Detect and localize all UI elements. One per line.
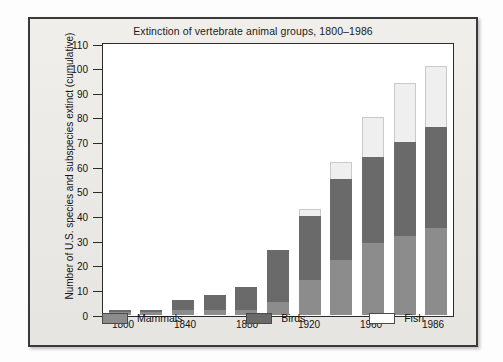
legend-item-birds: Birds bbox=[246, 312, 305, 324]
bar-segment-fish bbox=[362, 117, 384, 156]
legend-swatch-icon-mammals bbox=[102, 313, 128, 324]
bar-segment-fish bbox=[299, 209, 321, 216]
bar-segment-birds bbox=[425, 127, 447, 228]
bar-column bbox=[172, 46, 194, 315]
y-axis-tick bbox=[93, 69, 102, 70]
legend-label-mammals: Mammals bbox=[137, 312, 183, 324]
y-axis-tick-label: 50 bbox=[62, 187, 88, 198]
bar-segment-birds bbox=[267, 250, 289, 302]
y-axis-tick bbox=[93, 143, 102, 144]
y-axis-tick bbox=[93, 168, 102, 169]
chart-figure: Extinction of vertebrate animal groups, … bbox=[0, 0, 503, 362]
plot-wrapper: 0102030405060708090100110 bbox=[102, 43, 454, 317]
bar-column bbox=[204, 46, 226, 315]
y-axis-tick-label: 80 bbox=[62, 113, 88, 124]
bar-column bbox=[140, 46, 162, 315]
plot-area bbox=[102, 43, 454, 317]
legend-label-fish: Fish bbox=[404, 312, 424, 324]
bar-group bbox=[105, 46, 452, 315]
y-axis-tick-label: 90 bbox=[62, 88, 88, 99]
bar-segment-birds bbox=[330, 179, 352, 260]
bar-column bbox=[267, 46, 289, 315]
bar-segment-birds bbox=[299, 216, 321, 280]
bar-segment-mammals bbox=[394, 236, 416, 315]
y-axis-tick bbox=[93, 45, 102, 46]
legend-label-birds: Birds bbox=[281, 312, 305, 324]
y-axis-tick bbox=[93, 192, 102, 193]
chart-frame: Extinction of vertebrate animal groups, … bbox=[28, 17, 478, 347]
y-axis-tick bbox=[93, 118, 102, 119]
chart-legend: Mammals Birds Fish bbox=[70, 307, 456, 329]
y-axis-tick bbox=[93, 217, 102, 218]
bar-segment-fish bbox=[394, 83, 416, 142]
chart-title: Extinction of vertebrate animal groups, … bbox=[30, 25, 476, 37]
legend-item-fish: Fish bbox=[369, 312, 424, 324]
bar-segment-fish bbox=[425, 66, 447, 128]
bar-column bbox=[425, 46, 447, 315]
bar-segment-birds bbox=[362, 157, 384, 243]
y-axis-tick-label: 20 bbox=[62, 261, 88, 272]
bar-segment-mammals bbox=[362, 243, 384, 314]
bar-column bbox=[330, 46, 352, 315]
y-axis-tick-label: 110 bbox=[62, 39, 88, 50]
bar-column bbox=[109, 46, 131, 315]
y-axis-tick-label: 30 bbox=[62, 236, 88, 247]
bar-segment-fish bbox=[330, 162, 352, 179]
y-axis-tick bbox=[93, 94, 102, 95]
y-axis-tick bbox=[93, 291, 102, 292]
y-axis-tick-label: 40 bbox=[62, 211, 88, 222]
y-axis-tick bbox=[93, 266, 102, 267]
y-axis-tick-label: 60 bbox=[62, 162, 88, 173]
y-axis-tick bbox=[93, 242, 102, 243]
bar-column bbox=[235, 46, 257, 315]
bar-column bbox=[394, 46, 416, 315]
legend-item-mammals: Mammals bbox=[102, 312, 183, 324]
y-axis-tick-label: 100 bbox=[62, 64, 88, 75]
bar-segment-mammals bbox=[425, 228, 447, 314]
y-axis-tick-label: 10 bbox=[62, 285, 88, 296]
bar-segment-birds bbox=[394, 142, 416, 236]
legend-swatch-icon-birds bbox=[246, 313, 272, 324]
bar-column bbox=[362, 46, 384, 315]
bar-column bbox=[299, 46, 321, 315]
legend-swatch-icon-fish bbox=[369, 313, 395, 324]
y-axis-tick-label: 70 bbox=[62, 138, 88, 149]
